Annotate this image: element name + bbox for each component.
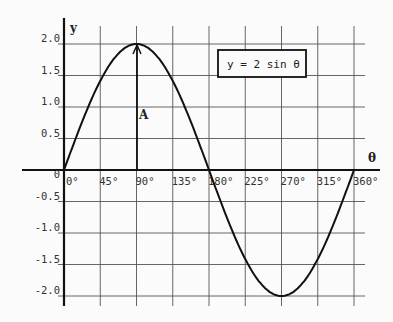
sine-chart: 0°45°90°135°180°225°270°315°360°2.01.51.…	[0, 0, 393, 322]
y-tick-label: 2.0	[41, 32, 60, 44]
x-tick-label: 360°	[353, 175, 378, 187]
legend-equation: y = 2 sin θ	[227, 58, 300, 71]
x-tick-label: 90°	[136, 175, 155, 187]
amplitude-label: A	[138, 108, 149, 122]
x-tick-label: 135°	[172, 175, 197, 187]
y-tick-label: 0	[54, 168, 60, 180]
grid-lines	[58, 26, 365, 306]
x-tick-label: 225°	[244, 175, 269, 187]
y-tick-label: 1.5	[41, 64, 60, 76]
x-tick-label: 0°	[66, 175, 79, 187]
y-axis-label: y	[69, 21, 78, 35]
x-tick-label: 315°	[317, 175, 342, 187]
x-tick-label: 45°	[99, 175, 118, 187]
y-tick-label: 1.0	[41, 95, 60, 107]
y-tick-label: -0.5	[35, 190, 60, 202]
x-axis-label: θ	[368, 151, 376, 165]
y-tick-label: -2.0	[35, 284, 60, 296]
y-tick-label: -1.5	[35, 253, 60, 265]
y-tick-label: -1.0	[35, 221, 60, 233]
y-tick-label: 0.5	[41, 127, 60, 139]
axes	[22, 18, 380, 306]
x-tick-label: 270°	[281, 175, 306, 187]
